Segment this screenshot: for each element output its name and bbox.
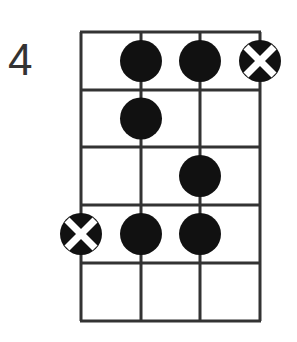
note-dot bbox=[120, 213, 162, 255]
note-dot bbox=[179, 213, 221, 255]
root-note-marker bbox=[60, 213, 102, 255]
note-dot bbox=[179, 40, 221, 82]
note-dot bbox=[120, 40, 162, 82]
fretboard-diagram bbox=[0, 0, 297, 342]
note-dot bbox=[120, 98, 162, 140]
note-dot bbox=[179, 155, 221, 197]
root-note-marker bbox=[239, 40, 281, 82]
